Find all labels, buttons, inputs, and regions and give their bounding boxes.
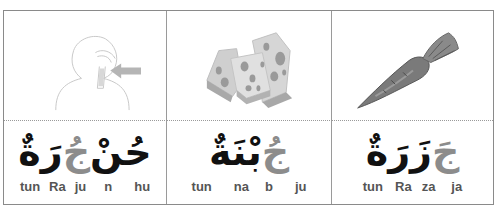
syllable: ju [295, 179, 307, 194]
word-cell-carrot: جَزَرَةٌ tun Ra za ja [332, 121, 493, 204]
arabic-segment: زَرَةٌ [366, 130, 432, 174]
syllable-row-throat: tun Ra ju n hu [4, 179, 166, 194]
syllable: n [104, 179, 112, 194]
syllable: na [234, 179, 249, 194]
syllable: hu [134, 179, 150, 194]
syllable: tun [363, 179, 383, 194]
arabic-segment-highlighted: جَ [432, 130, 459, 174]
arabic-segment-highlighted: جُ [262, 130, 289, 174]
arabic-segment: بْنَةٌ [209, 130, 262, 174]
syllable-row-cheese: tun na b ju [167, 179, 331, 194]
syllable: Ra [49, 179, 66, 194]
word-cell-cheese: جُبْنَةٌ tun na b ju [167, 121, 332, 204]
syllable: ja [451, 179, 462, 194]
syllable: Ra [395, 179, 412, 194]
word-cell-throat: حُنْجُرَةٌ tun Ra ju n hu [4, 121, 167, 204]
syllable: ju [75, 179, 87, 194]
arabic-word-cheese: جُبْنَةٌ [167, 127, 331, 177]
syllable: tun [192, 179, 212, 194]
syllable: b [265, 179, 273, 194]
cheese-illustration-icon [167, 11, 331, 120]
arabic-word-carrot: جَزَرَةٌ [332, 127, 493, 177]
flashcard-grid: حُنْجُرَةٌ tun Ra ju n hu جُبْنَةٌ tun n… [3, 10, 494, 205]
arabic-segment-highlighted: جُ [63, 130, 90, 174]
syllable: za [422, 179, 436, 194]
arabic-segment: رَةٌ [18, 130, 62, 174]
picture-cell-carrot [332, 11, 493, 121]
arabic-word-throat: حُنْجُرَةٌ [4, 127, 166, 177]
carrot-illustration-icon [332, 11, 493, 120]
picture-cell-cheese [167, 11, 332, 121]
picture-cell-throat [4, 11, 167, 121]
syllable: tun [20, 179, 40, 194]
arabic-segment: حُنْ [90, 130, 152, 174]
syllable-row-carrot: tun Ra za ja [332, 179, 493, 194]
throat-illustration-icon [4, 11, 166, 120]
